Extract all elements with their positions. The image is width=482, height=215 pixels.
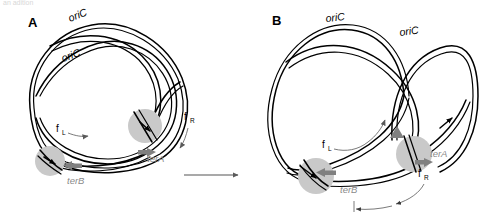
fork-label-b-left-sub: L <box>328 145 332 152</box>
terb-label-a: terB <box>67 175 85 186</box>
strand-b-diag2-1 <box>288 96 404 170</box>
panel-a-letter: A <box>28 15 38 30</box>
figure-root: an adition A <box>0 0 482 215</box>
fork-label-a-left-text: f <box>56 123 59 134</box>
clipped-caption-text: an adition <box>3 0 33 6</box>
panel-a: A <box>28 5 195 186</box>
tera-label-a: terA <box>147 153 164 164</box>
panel-b-letter: B <box>272 13 281 28</box>
panel-b: B <box>268 10 478 212</box>
orric-label-a-2: oriC <box>60 46 83 64</box>
tera-label-b: terA <box>430 148 447 159</box>
strand-a-inner-1 <box>36 41 177 164</box>
fork-label-a-left: f L <box>56 123 66 136</box>
orric-label-a-1: oriC <box>66 5 89 23</box>
orric-label-b-2: oriC <box>399 23 420 38</box>
strand-b-left-ring-2 <box>268 25 409 183</box>
strand-b-tail-1 <box>424 100 466 150</box>
fork-label-b-left-text: f <box>322 139 325 150</box>
fork-label-b-right-sub: R <box>424 174 429 181</box>
fork-arrow-a-left <box>68 133 88 136</box>
fork-label-a-right-text: f <box>184 111 187 122</box>
fork-label-a-right-sub: R <box>190 117 195 124</box>
fork-label-b-left: f L <box>322 139 332 152</box>
orric-label-b-1: oriC <box>325 10 346 24</box>
fork-label-b-right-text: f <box>418 168 421 179</box>
fork-arrow-b-right-upper <box>396 184 424 204</box>
terb-label-b: terB <box>340 184 358 195</box>
fork-arrow-a-right <box>180 128 188 148</box>
replication-diagram-svg: an adition A <box>0 0 482 215</box>
fork-arrow-b-right-lower <box>356 206 392 209</box>
fork-label-a-left-sub: L <box>62 129 66 136</box>
fork-label-b-right: f R <box>418 168 429 181</box>
